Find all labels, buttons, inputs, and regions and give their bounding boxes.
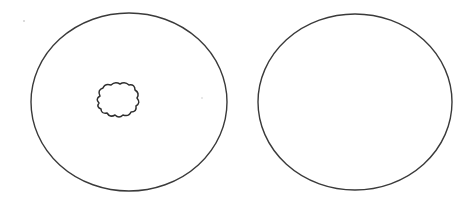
cloud-blob-icon <box>97 83 139 117</box>
speck-dot <box>201 97 202 98</box>
speck-dot <box>23 20 25 22</box>
right-circle-group <box>258 14 452 190</box>
left-ellipse <box>31 13 227 191</box>
left-circle-group <box>31 13 227 191</box>
diagram-canvas <box>0 0 471 197</box>
right-ellipse <box>258 14 452 190</box>
